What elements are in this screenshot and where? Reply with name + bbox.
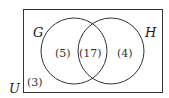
universe-label: U <box>9 81 21 96</box>
set-g-label: G <box>33 25 43 40</box>
set-h-label: H <box>144 25 157 40</box>
h-only-count: (4) <box>117 47 133 60</box>
outside-count: (3) <box>27 76 43 89</box>
intersection-count: (17) <box>79 47 102 60</box>
g-only-count: (5) <box>55 47 71 60</box>
venn-diagram: G H U (5) (17) (4) (3) <box>0 0 169 98</box>
